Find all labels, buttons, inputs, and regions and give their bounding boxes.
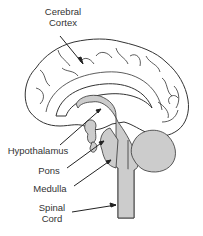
- label-line: Medulla: [28, 183, 72, 194]
- label-line: Pons: [34, 165, 64, 176]
- label-medulla: Medulla: [28, 183, 72, 194]
- brain-diagram: [0, 0, 203, 236]
- label-line: Hypothalamus: [4, 145, 72, 156]
- label-line: Cerebral: [40, 6, 86, 17]
- label-hypothalamus: Hypothalamus: [4, 145, 72, 156]
- cerebellum: [131, 130, 175, 172]
- label-line: Spinal: [34, 202, 70, 213]
- label-spinal-cord: Spinal Cord: [34, 202, 70, 224]
- label-line: Cortex: [40, 17, 86, 28]
- label-line: Cord: [34, 213, 70, 224]
- label-cerebral-cortex: Cerebral Cortex: [40, 6, 86, 28]
- hypothalamus-shape: [85, 120, 96, 143]
- spinal-cord: [118, 168, 134, 218]
- label-pons: Pons: [34, 165, 64, 176]
